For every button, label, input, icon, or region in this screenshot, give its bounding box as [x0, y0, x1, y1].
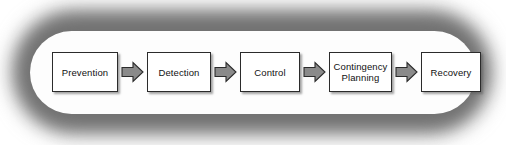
process-step-contingency-planning[interactable]: ContingencyPlanning — [329, 52, 392, 92]
right-block-arrow-icon — [303, 61, 326, 83]
process-step-label: Control — [251, 67, 288, 78]
right-block-arrow-icon — [214, 61, 237, 83]
process-step-label: ContingencyPlanning — [331, 61, 391, 83]
process-step-label: Detection — [155, 67, 202, 78]
process-step-control[interactable]: Control — [240, 52, 300, 92]
process-step-recovery[interactable]: Recovery — [421, 52, 481, 92]
right-block-arrow-icon — [121, 61, 144, 83]
process-step-detection[interactable]: Detection — [147, 52, 211, 92]
process-step-prevention[interactable]: Prevention — [52, 52, 118, 92]
process-step-label: Recovery — [428, 67, 475, 78]
right-block-arrow-icon — [395, 61, 418, 83]
diagram-canvas: Prevention Detection Control Contingency… — [0, 0, 506, 145]
process-step-label: Prevention — [59, 67, 111, 78]
process-flow-row: Prevention Detection Control Contingency… — [52, 51, 456, 93]
